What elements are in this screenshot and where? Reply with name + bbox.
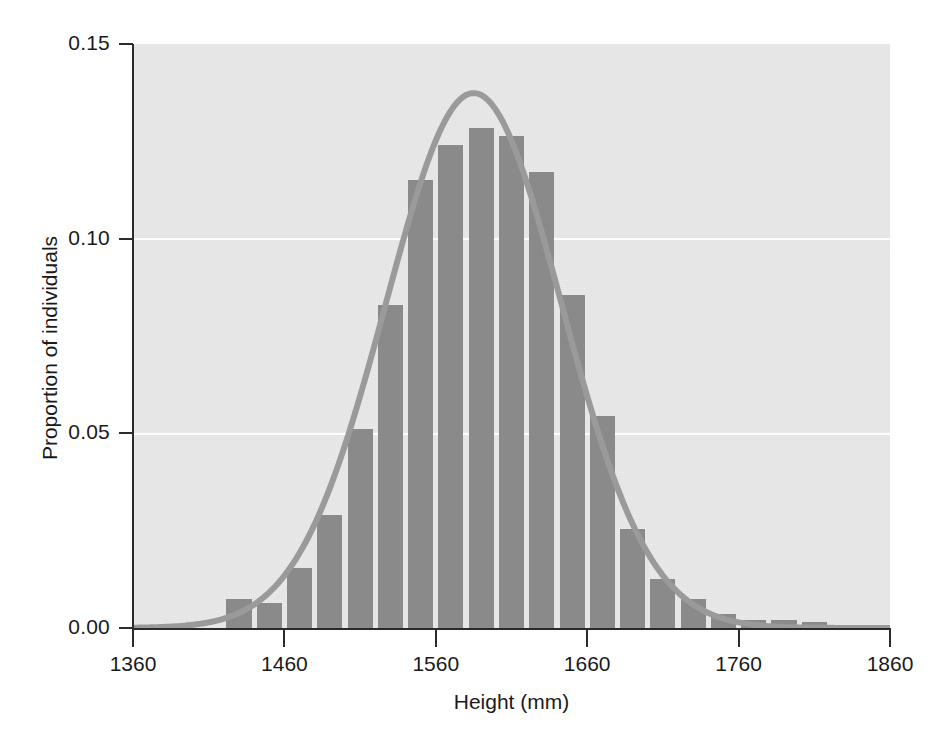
x-axis-tick — [132, 630, 134, 647]
y-axis-tick — [119, 627, 133, 629]
histogram-bar — [681, 599, 706, 628]
y-axis-tick — [119, 238, 133, 240]
x-axis-tick-label: 1560 — [376, 652, 496, 676]
y-axis-title: Proportion of individuals — [38, 98, 62, 598]
x-axis-line — [132, 628, 891, 630]
histogram-bar — [529, 172, 554, 628]
x-axis-tick — [586, 630, 588, 647]
histogram-bar — [590, 416, 615, 628]
x-axis-tick — [435, 630, 437, 647]
y-axis-tick — [119, 43, 133, 45]
x-axis-tick-label: 1760 — [679, 652, 799, 676]
histogram-bar — [348, 429, 373, 628]
x-axis-tick-label: 1660 — [527, 652, 647, 676]
x-axis-tick-label: 1360 — [73, 652, 193, 676]
histogram-bar — [408, 180, 433, 628]
y-axis-tick — [119, 432, 133, 434]
x-axis-tick — [889, 630, 891, 647]
histogram-bars — [133, 44, 890, 628]
x-axis-tick — [738, 630, 740, 647]
histogram-bar — [620, 529, 645, 628]
x-axis-tick-label: 1460 — [224, 652, 344, 676]
y-axis-line — [132, 44, 134, 630]
histogram-bar — [711, 614, 736, 628]
histogram-bar — [287, 568, 312, 628]
histogram-bar — [257, 603, 282, 628]
histogram-bar — [378, 305, 403, 628]
histogram-bar — [438, 145, 463, 628]
histogram-bar — [226, 599, 251, 628]
histogram-bar — [741, 620, 766, 628]
histogram-figure: 0.000.050.100.15 13601460156016601760186… — [0, 0, 944, 739]
histogram-bar — [469, 128, 494, 628]
y-axis-tick-label: 0.00 — [38, 615, 110, 639]
histogram-bar — [771, 620, 796, 628]
histogram-bar — [317, 515, 342, 628]
histogram-bar — [650, 579, 675, 628]
y-axis-tick-label: 0.15 — [38, 31, 110, 55]
x-axis-title: Height (mm) — [133, 690, 890, 714]
histogram-bar — [499, 136, 524, 629]
histogram-bar — [560, 295, 585, 628]
x-axis-tick-label: 1860 — [830, 652, 944, 676]
x-axis-tick — [283, 630, 285, 647]
